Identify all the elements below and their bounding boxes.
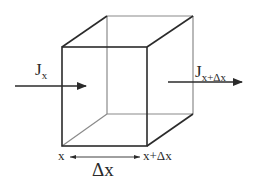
cube-back-edges bbox=[62, 16, 193, 146]
flux-in-symbol: J bbox=[35, 60, 42, 79]
cube-front-edges bbox=[62, 16, 193, 146]
position-right-label: x+Δx bbox=[143, 149, 172, 162]
control-volume-diagram bbox=[0, 0, 256, 178]
flux-in-subscript: x bbox=[42, 69, 48, 81]
bottom-left-depth-edge bbox=[62, 114, 107, 146]
flux-out-subscript: x+Δx bbox=[202, 71, 226, 83]
flux-out-label: Jx+Δx bbox=[195, 63, 226, 80]
position-left-label: x bbox=[58, 149, 65, 162]
flux-in-label: Jx bbox=[35, 61, 47, 78]
bottom-right-depth-edge bbox=[147, 114, 193, 146]
cube-front-face bbox=[62, 47, 147, 146]
top-right-depth-edge bbox=[147, 16, 193, 47]
flux-out-symbol: J bbox=[195, 62, 202, 81]
top-left-depth-edge bbox=[62, 16, 107, 47]
width-label: Δx bbox=[92, 160, 114, 178]
